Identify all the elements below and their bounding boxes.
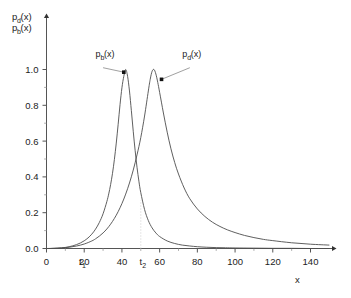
y-axis-title: pd(x)pb(x) — [12, 11, 32, 35]
p_d-annotation-arrow-line — [162, 68, 190, 80]
chart-figure: 0204060801001201400.00.20.40.60.81.0t1t2… — [0, 0, 351, 298]
marker-label-t2: t2 — [139, 256, 146, 269]
x-tick-label-0: 0 — [44, 256, 49, 267]
p_b-annotation-arrow-line — [103, 68, 124, 72]
y-axis-arrow — [44, 14, 49, 19]
y-tick-label-0.6: 0.6 — [25, 136, 38, 147]
y-axis-title-line2-tail: (x) — [21, 22, 32, 33]
marker-sub-t1: 1 — [82, 262, 86, 269]
x-tick-label-60: 60 — [154, 256, 165, 267]
marker-sub-t2: 2 — [142, 262, 146, 269]
x-axis-arrow — [332, 246, 337, 251]
p_b-annotation-tail: (x) — [104, 49, 115, 59]
x-tick-label-140: 140 — [303, 256, 319, 267]
x-tick-label-80: 80 — [192, 256, 203, 267]
p_d-annotation-arrow-head — [160, 78, 164, 82]
x-axis-title: x — [295, 274, 300, 285]
curve-series-1 — [47, 69, 330, 248]
x-tick-label-40: 40 — [117, 256, 128, 267]
curve-series-0 — [47, 70, 330, 249]
p_d-annotation: pd(x) — [160, 49, 202, 81]
chart-canvas: 0204060801001201400.00.20.40.60.81.0t1t2… — [0, 0, 351, 298]
p_b-annotation-arrow-head — [122, 70, 126, 74]
y-tick-label-0.2: 0.2 — [25, 207, 38, 218]
y-tick-label-0.4: 0.4 — [25, 171, 38, 182]
x-tick-label-100: 100 — [227, 256, 243, 267]
p_d-annotation-tail: (x) — [191, 49, 202, 59]
y-tick-label-0.8: 0.8 — [25, 100, 38, 111]
p_b-annotation: pb(x) — [96, 49, 126, 74]
y-tick-label-0: 0.0 — [25, 243, 38, 254]
y-tick-label-1: 1.0 — [25, 64, 38, 75]
y-axis-title-line1-tail: (x) — [21, 11, 32, 22]
x-tick-label-120: 120 — [265, 256, 281, 267]
